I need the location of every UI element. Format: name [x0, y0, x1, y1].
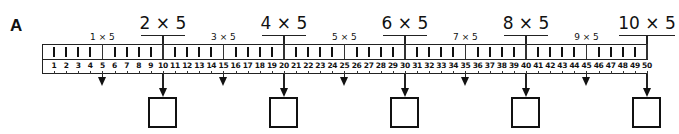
answer-box[interactable]: [511, 97, 540, 128]
ruler-number: 36: [473, 61, 483, 70]
ruler-major-line: [162, 44, 163, 59]
answer-box[interactable]: [148, 97, 177, 128]
ruler-tick: [319, 47, 321, 57]
ruler-number: 37: [485, 61, 495, 70]
ruler-number: 12: [182, 61, 192, 70]
ruler-subtick: [260, 71, 261, 74]
ruler-number: 11: [170, 61, 180, 70]
ruler-number: 15: [219, 61, 229, 70]
ruler-number: 48: [618, 61, 628, 70]
ruler-subtick: [574, 71, 575, 74]
ruler-subtick: [490, 71, 491, 74]
down-arrow-icon: [401, 88, 409, 97]
ruler-tick: [634, 47, 636, 57]
ruler-tick: [452, 47, 454, 57]
answer-box[interactable]: [390, 97, 419, 128]
ruler-subtick: [357, 71, 358, 74]
even-multiple-label: 6 × 5: [382, 13, 429, 33]
ruler-number: 44: [569, 61, 579, 70]
ruler-subtick: [211, 71, 212, 74]
ruler-subtick: [611, 71, 612, 74]
answer-box[interactable]: [632, 97, 661, 128]
odd-multiple-label: 3 × 5: [211, 32, 236, 42]
ruler-tick: [89, 47, 91, 57]
ruler-number: 50: [642, 61, 652, 70]
ruler-subtick: [272, 71, 273, 74]
down-arrow-icon: [98, 77, 106, 86]
ruler-tick: [610, 47, 612, 57]
ruler-subtick: [478, 71, 479, 74]
down-arrow-icon: [159, 88, 167, 97]
even-multiple-label: 4 × 5: [261, 13, 308, 33]
ruler-major-line: [102, 44, 103, 59]
ruler-subtick: [550, 71, 551, 74]
ruler-subtick: [320, 71, 321, 74]
section-letter: A: [10, 17, 22, 34]
ruler-major-line: [465, 44, 466, 59]
ruler-tick: [65, 47, 67, 57]
ruler-subtick: [115, 71, 116, 74]
ruler-tick: [295, 47, 297, 57]
arrow-stem: [646, 74, 647, 89]
ruler-tick: [561, 47, 563, 57]
ruler-tick: [271, 47, 273, 57]
ruler-subtick: [175, 71, 176, 74]
ruler-subtick: [514, 71, 515, 74]
ruler-major-line: [344, 44, 345, 59]
ruler-subtick: [127, 71, 128, 74]
ruler-subtick: [369, 71, 370, 74]
ruler-number: 6: [112, 61, 117, 70]
ruler-tick: [392, 47, 394, 57]
ruler-number: 18: [255, 61, 265, 70]
arrow-stem: [283, 74, 284, 89]
even-multiple-label: 10 × 5: [618, 13, 676, 33]
down-arrow-icon: [643, 88, 651, 97]
ruler-subtick: [417, 71, 418, 74]
ruler-tick: [477, 47, 479, 57]
ruler-number: 16: [231, 61, 241, 70]
ruler-number: 8: [136, 61, 141, 70]
odd-multiple-label: 7 × 5: [453, 32, 478, 42]
ruler-number: 35: [461, 61, 471, 70]
ruler-number: 28: [376, 61, 386, 70]
ruler-number: 31: [412, 61, 422, 70]
ruler-number: 2: [64, 61, 69, 70]
ruler-tick: [513, 47, 515, 57]
odd-multiple-label: 9 × 5: [574, 32, 599, 42]
down-arrow-icon: [280, 88, 288, 97]
ruler-tick: [416, 47, 418, 57]
ruler-subtick: [236, 71, 237, 74]
ruler-number: 25: [340, 61, 350, 70]
ruler-major-line: [404, 44, 405, 59]
ruler-subtick: [296, 71, 297, 74]
ruler-number: 49: [630, 61, 640, 70]
ruler-tick: [598, 47, 600, 57]
ruler-tick: [380, 47, 382, 57]
ruler-subtick: [502, 71, 503, 74]
ruler-number: 4: [88, 61, 93, 70]
ruler-subtick: [538, 71, 539, 74]
label-stem: [283, 35, 284, 44]
ruler-subtick: [441, 71, 442, 74]
ruler-subtick: [453, 71, 454, 74]
ruler-subtick: [248, 71, 249, 74]
ruler-number: 40: [521, 61, 531, 70]
ruler-subtick: [308, 71, 309, 74]
ruler-number: 42: [545, 61, 555, 70]
ruler-number: 39: [509, 61, 519, 70]
ruler-major-line: [646, 44, 647, 59]
ruler-tick: [235, 47, 237, 57]
ruler-subtick: [393, 71, 394, 74]
ruler-number: 7: [124, 61, 129, 70]
ruler-number: 13: [194, 61, 204, 70]
ruler-tick: [489, 47, 491, 57]
even-multiple-label: 8 × 5: [503, 13, 550, 33]
ruler-number: 24: [327, 61, 337, 70]
arrow-stem: [162, 74, 163, 89]
arrow-stem: [525, 74, 526, 89]
ruler-number: 30: [400, 61, 410, 70]
even-multiple-label: 2 × 5: [140, 13, 187, 33]
answer-box[interactable]: [269, 97, 298, 128]
ruler-tick: [549, 47, 551, 57]
label-stem: [525, 35, 526, 44]
